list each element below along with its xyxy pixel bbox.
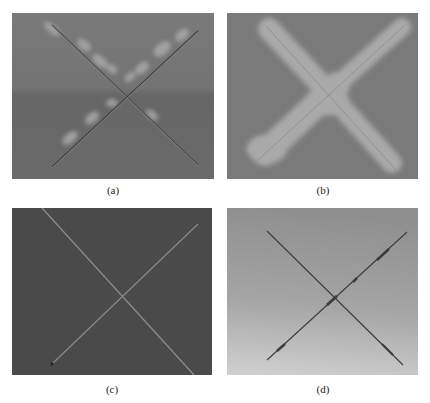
- scratch-image-d: [227, 208, 418, 375]
- photo-panel-c: [12, 208, 212, 375]
- scratch-image-c: [12, 208, 212, 375]
- caption-d: (d): [293, 383, 353, 395]
- caption-c: (c): [82, 383, 142, 395]
- scratch-image-a: [12, 13, 214, 179]
- caption-a: (a): [83, 184, 143, 196]
- photo-panel-b: [227, 13, 418, 179]
- photo-panel-a: [12, 13, 214, 179]
- scratch-image-b: [227, 13, 418, 179]
- caption-b: (b): [293, 184, 353, 196]
- photo-panel-d: [227, 208, 418, 375]
